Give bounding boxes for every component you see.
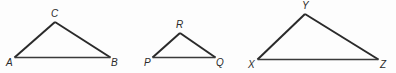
segment-ac [15, 22, 56, 58]
vertex-label-q: Q [216, 58, 224, 68]
vertex-label-x: X [248, 60, 255, 70]
segment-cb [55, 22, 111, 58]
triangle-pqr-shape [153, 33, 216, 58]
segment-rq [180, 33, 216, 58]
triangle-abc-shape [15, 22, 111, 58]
vertex-label-y: Y [302, 1, 309, 11]
segment-yz [305, 14, 379, 60]
triangle-xyz-shape [258, 14, 379, 60]
segment-pr [153, 33, 181, 58]
geometry-figure-canvas: A B C P Q R X Z Y [0, 0, 396, 73]
vertex-label-a: A [6, 58, 13, 68]
vertex-label-c: C [51, 9, 58, 19]
vertex-label-b: B [111, 58, 118, 68]
vertex-label-r: R [176, 20, 183, 30]
triangles-drawing [0, 0, 396, 73]
vertex-label-p: P [144, 58, 151, 68]
vertex-label-z: Z [380, 60, 386, 70]
segment-xy [258, 14, 306, 60]
